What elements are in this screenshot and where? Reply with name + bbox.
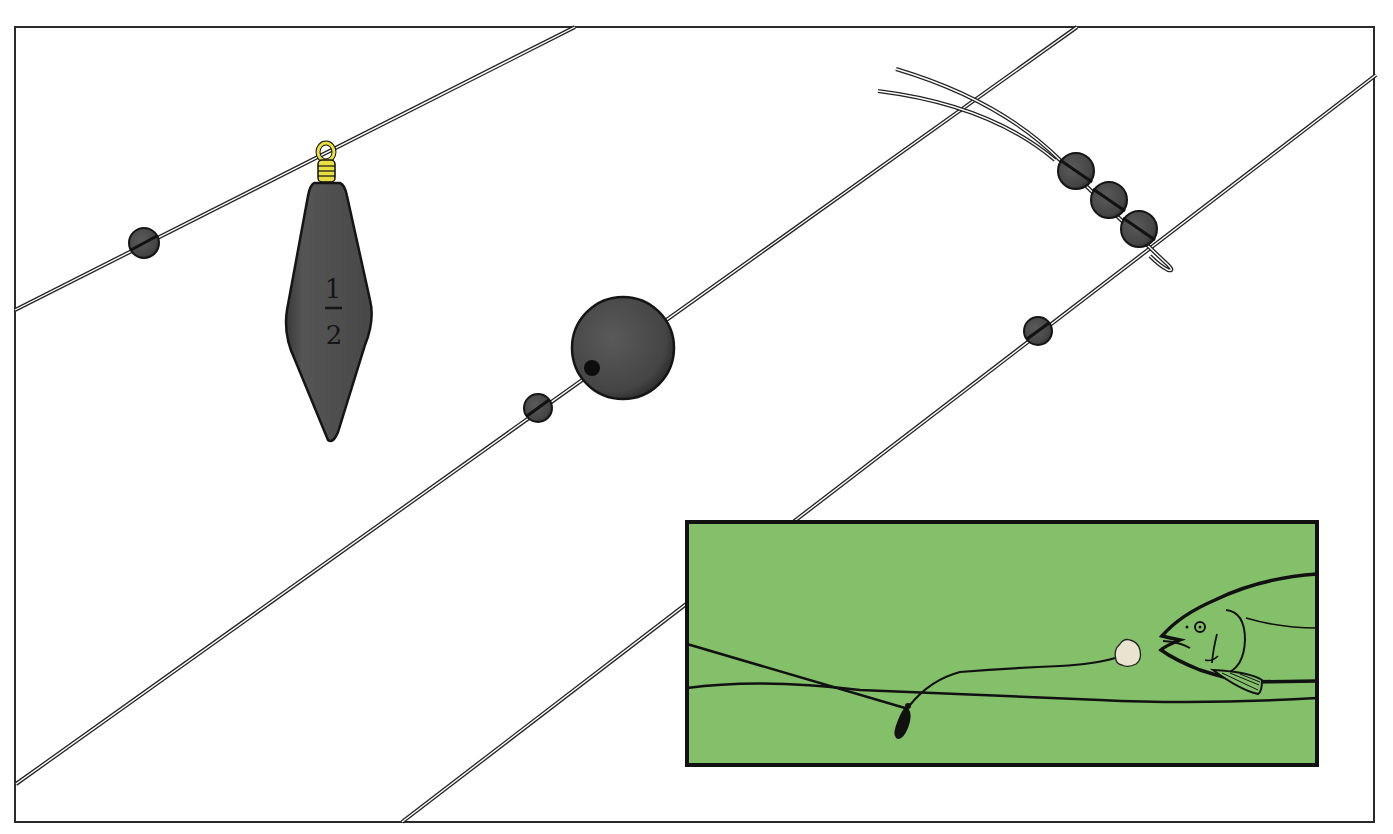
bead-small-2 xyxy=(524,394,552,422)
bead-cluster-3 xyxy=(1121,211,1157,247)
sinker-weight-denominator: 2 xyxy=(326,320,343,350)
sinker-weight-numerator: 1 xyxy=(325,274,342,304)
inset-underwater-scene xyxy=(687,522,1317,765)
bead-large xyxy=(572,297,674,399)
bead-small-3 xyxy=(1024,317,1052,345)
bead-cluster-1 xyxy=(1058,153,1094,189)
bead-small-1 xyxy=(129,228,159,258)
fishing-rig-illustration: 1 2 xyxy=(0,0,1393,834)
bead-cluster-2 xyxy=(1091,182,1127,218)
